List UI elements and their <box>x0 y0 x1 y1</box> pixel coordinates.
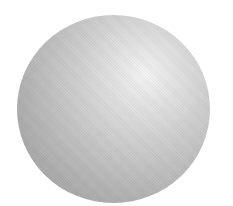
gray-sphere <box>17 15 210 203</box>
image-canvas <box>0 0 233 206</box>
sphere-texture <box>17 15 210 203</box>
